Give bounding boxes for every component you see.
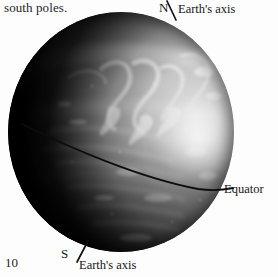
label-equator: Equator xyxy=(224,182,264,197)
label-south-pole: S xyxy=(61,246,68,262)
textbook-page: south poles. xyxy=(0,0,278,277)
globe-sphere xyxy=(8,12,234,252)
label-north-pole: N xyxy=(159,0,168,16)
earth-globe-figure xyxy=(8,12,234,252)
label-south-earths-axis: Earth's axis xyxy=(79,258,136,273)
sphere-limb-darkening xyxy=(8,12,234,252)
label-north-earths-axis: Earth's axis xyxy=(178,2,235,17)
page-number: 10 xyxy=(5,255,18,271)
